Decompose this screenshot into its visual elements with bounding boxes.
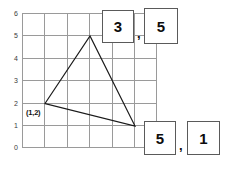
y-tick-5: 5: [4, 32, 18, 39]
answer-box-top-first[interactable]: 3: [102, 10, 134, 43]
answer-box-bottom-second[interactable]: 1: [187, 121, 220, 155]
y-tick-2: 2: [4, 100, 18, 107]
y-tick-0: 0: [4, 144, 18, 151]
comma-separator-bottom: ,: [179, 141, 183, 151]
answer-box-bottom-first[interactable]: 5: [144, 121, 176, 155]
point-label-1-2: (1,2): [26, 108, 40, 117]
answer-box-top-second[interactable]: 5: [144, 8, 178, 44]
y-tick-1: 1: [4, 122, 18, 129]
y-tick-6: 6: [4, 10, 18, 17]
comma-separator-top: ,: [137, 29, 141, 39]
coordinate-plane-worksheet: 6 5 4 3 2 1 0 (1,2) 3 , 5 5 , 1: [0, 0, 231, 170]
y-tick-4: 4: [4, 55, 18, 62]
y-tick-3: 3: [4, 77, 18, 84]
